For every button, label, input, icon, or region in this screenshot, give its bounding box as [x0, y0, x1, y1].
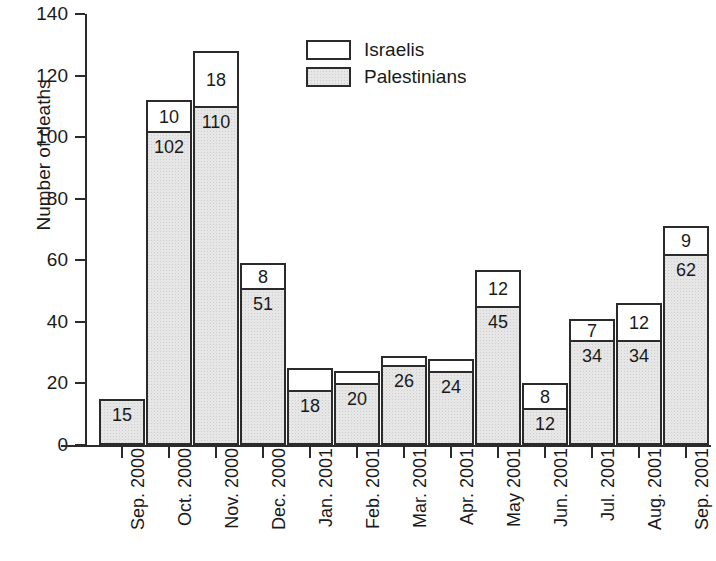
bar-segment-value-label: 110: [195, 113, 237, 131]
bar-segment-palestinians[interactable]: 20: [334, 383, 380, 445]
bar-group[interactable]: 26: [381, 356, 427, 445]
bar-segment-value-label: 7: [587, 322, 597, 340]
x-axis-tick-label: Mar. 2001: [411, 448, 429, 561]
y-axis-line: [85, 14, 87, 446]
legend-swatch-israelis-icon: [306, 40, 351, 60]
bar-segment-israelis[interactable]: [381, 356, 427, 367]
bar-segment-palestinians[interactable]: 45: [475, 306, 521, 445]
y-axis-tick: [75, 136, 85, 138]
y-axis-tick-label: 20: [8, 373, 68, 392]
legend-label-israelis: Israelis: [364, 40, 424, 59]
bar-segment-value-label: 34: [618, 347, 660, 365]
bar-segment-value-label: 24: [430, 378, 472, 396]
bar-segment-value-label: 62: [665, 261, 707, 279]
x-axis-tick: [450, 447, 452, 458]
y-axis-tick-label: 100: [8, 127, 68, 146]
bar-group[interactable]: 15: [99, 399, 145, 445]
bar-segment-palestinians[interactable]: 102: [146, 131, 192, 445]
bar-segment-israelis[interactable]: 8: [522, 383, 568, 410]
y-axis-tick: [75, 259, 85, 261]
bar-segment-israelis[interactable]: [334, 371, 380, 385]
bar-segment-value-label: 12: [488, 280, 508, 298]
x-axis-tick: [497, 447, 499, 458]
x-axis-tick: [591, 447, 593, 458]
bar-segment-value-label: 26: [383, 372, 425, 390]
bar-group[interactable]: 10210: [146, 100, 192, 445]
x-axis-tick-label: Jul. 2001: [599, 448, 617, 561]
x-axis-tick: [544, 447, 546, 458]
legend-swatch-palestinians-icon: [306, 67, 351, 87]
bar-segment-value-label: 8: [258, 268, 268, 286]
bar-group[interactable]: 11018: [193, 51, 239, 445]
bar-group[interactable]: 518: [240, 263, 286, 445]
bar-group[interactable]: 20: [334, 371, 380, 445]
bar-segment-value-label: 15: [101, 406, 143, 424]
y-axis-tick-label: 60: [8, 250, 68, 269]
bar-segment-value-label: 20: [336, 390, 378, 408]
x-axis-tick: [309, 447, 311, 458]
bar-segment-value-label: 10: [159, 108, 179, 126]
x-axis-tick-label: Jun. 2001: [552, 448, 570, 561]
x-axis-tick: [685, 447, 687, 458]
x-axis-tick: [121, 447, 123, 458]
bar-segment-value-label: 12: [629, 314, 649, 332]
bar-segment-palestinians[interactable]: 12: [522, 408, 568, 445]
bar-segment-palestinians[interactable]: 26: [381, 365, 427, 445]
bar-segment-israelis[interactable]: 10: [146, 100, 192, 133]
bar-segment-value-label: 12: [524, 415, 566, 433]
bar-segment-value-label: 51: [242, 295, 284, 313]
bar-segment-israelis[interactable]: 12: [616, 303, 662, 342]
bar-group[interactable]: 4512: [475, 270, 521, 445]
bar-segment-palestinians[interactable]: 51: [240, 288, 286, 445]
y-axis-tick: [75, 13, 85, 15]
bar-group[interactable]: 629: [663, 226, 709, 445]
y-axis-tick: [75, 198, 85, 200]
legend-label-palestinians: Palestinians: [364, 67, 466, 86]
bar-group[interactable]: 128: [522, 383, 568, 445]
x-axis-tick-label: Sep. 2001: [693, 448, 711, 561]
y-axis-tick: [75, 321, 85, 323]
y-axis-tick-label: 140: [8, 4, 68, 23]
x-axis-tick-label: May 2001: [505, 448, 523, 561]
bar-segment-palestinians[interactable]: 110: [193, 106, 239, 445]
bar-group[interactable]: 3412: [616, 303, 662, 445]
bar-segment-value-label: 9: [681, 232, 691, 250]
chart-legend: Israelis Palestinians: [306, 36, 466, 90]
bar-segment-israelis[interactable]: 8: [240, 263, 286, 290]
bar-segment-palestinians[interactable]: 24: [428, 371, 474, 445]
y-axis-tick-label: 0: [8, 435, 68, 454]
bar-segment-palestinians[interactable]: 18: [287, 390, 333, 445]
x-axis-tick: [356, 447, 358, 458]
bar-segment-palestinians[interactable]: 15: [99, 399, 145, 445]
bar-segment-value-label: 8: [540, 388, 550, 406]
stacked-bar-chart: Number of deaths 020406080100120140 1510…: [0, 0, 716, 561]
bar-segment-israelis[interactable]: 7: [569, 319, 615, 343]
bar-segment-israelis[interactable]: 18: [193, 51, 239, 108]
bar-segment-israelis[interactable]: 9: [663, 226, 709, 256]
bar-group[interactable]: 24: [428, 359, 474, 445]
x-axis-tick-label: Nov. 2000: [223, 448, 241, 561]
x-axis-tick-label: Jan. 2001: [317, 448, 335, 561]
y-axis-tick-label: 120: [8, 66, 68, 85]
bar-segment-palestinians[interactable]: 62: [663, 254, 709, 445]
legend-entry-israelis: Israelis: [306, 36, 466, 63]
bar-segment-israelis[interactable]: [287, 368, 333, 392]
bar-segment-value-label: 45: [477, 313, 519, 331]
bar-segment-palestinians[interactable]: 34: [616, 340, 662, 445]
bar-group[interactable]: 347: [569, 319, 615, 445]
bar-group[interactable]: 18: [287, 368, 333, 445]
legend-entry-palestinians: Palestinians: [306, 63, 466, 90]
x-axis-line: [61, 445, 711, 447]
bar-segment-israelis[interactable]: 12: [475, 270, 521, 309]
bar-segment-palestinians[interactable]: 34: [569, 340, 615, 445]
y-axis-tick-label: 80: [8, 189, 68, 208]
y-axis-tick: [75, 382, 85, 384]
x-axis-tick-label: Dec. 2000: [270, 448, 288, 561]
bar-segment-israelis[interactable]: [428, 359, 474, 373]
x-axis-tick: [215, 447, 217, 458]
x-axis-tick: [168, 447, 170, 458]
x-axis-tick: [262, 447, 264, 458]
x-axis-tick-label: Oct. 2000: [176, 448, 194, 561]
x-axis-tick: [638, 447, 640, 458]
x-axis-tick: [403, 447, 405, 458]
